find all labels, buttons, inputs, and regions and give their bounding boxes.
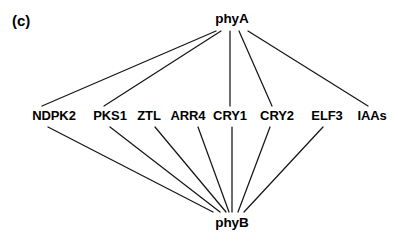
figure-panel-c: (c) phyANDPK2PKS1ZTLARR4CRY1CRY2ELF3IAAs… [0,0,398,244]
node-label-CRY2: CRY2 [259,109,295,123]
node-label-phyA: phyA [214,12,249,26]
node-label-PKS1: PKS1 [92,109,128,123]
edge-phyA-PKS1 [104,31,221,106]
edge-NDPK2-phyB [48,127,213,212]
edge-phyA-NDPK2 [42,31,216,106]
edge-CRY2-phyB [238,127,270,212]
node-label-CRY1: CRY1 [212,109,248,123]
node-label-ARR4: ARR4 [170,109,207,123]
node-label-IAAs: IAAs [356,109,387,123]
edge-phyA-IAAs [248,31,368,106]
node-label-ZTL: ZTL [136,109,162,123]
node-label-ELF3: ELF3 [310,109,343,123]
node-label-phyB: phyB [214,216,249,230]
edge-ELF3-phyB [244,127,323,212]
node-label-NDPK2: NDPK2 [31,109,77,123]
